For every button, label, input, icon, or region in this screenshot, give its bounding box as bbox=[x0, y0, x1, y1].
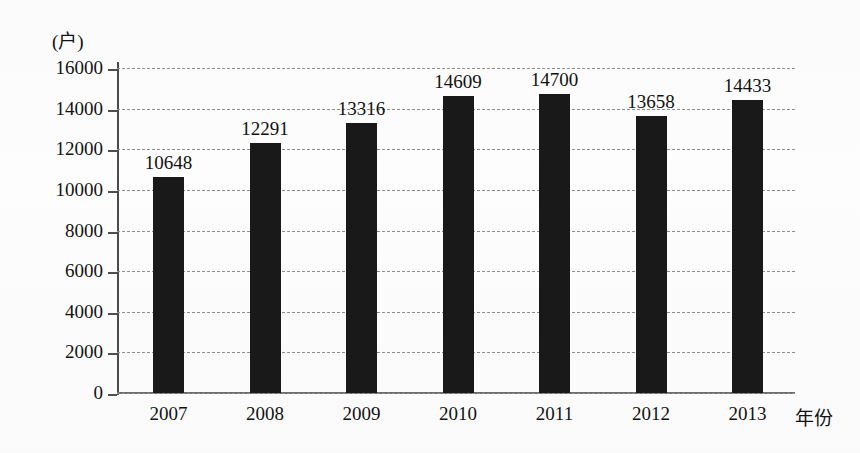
bar-2008: 12291 bbox=[250, 143, 281, 393]
bar-2013: 14433 bbox=[732, 100, 763, 393]
y-tick-label-10000: 10000 bbox=[56, 179, 104, 201]
bar-value-2009: 13316 bbox=[338, 98, 386, 120]
bar-value-2011: 14700 bbox=[531, 69, 579, 91]
x-tick-label-2012: 2012 bbox=[632, 403, 670, 425]
gridline-0: 0 bbox=[117, 393, 795, 394]
y-tick-label-16000: 16000 bbox=[56, 57, 104, 79]
y-tick-mark-8000 bbox=[108, 232, 117, 234]
y-tick-label-8000: 8000 bbox=[65, 220, 103, 242]
bar-2011: 14700 bbox=[539, 94, 570, 393]
bar-2012: 13658 bbox=[636, 116, 667, 393]
y-tick-mark-0 bbox=[108, 394, 117, 396]
bar-value-2013: 14433 bbox=[724, 75, 772, 97]
y-axis-line bbox=[117, 62, 119, 395]
x-tick-label-2011: 2011 bbox=[536, 403, 573, 425]
y-tick-mark-10000 bbox=[108, 191, 117, 193]
y-tick-label-14000: 14000 bbox=[56, 98, 104, 120]
x-tick-label-2013: 2013 bbox=[729, 403, 767, 425]
y-tick-label-12000: 12000 bbox=[56, 139, 104, 161]
y-axis-unit-label: (户) bbox=[52, 26, 84, 53]
bar-2007: 10648 bbox=[153, 177, 184, 393]
bar-chart-screenshot: (户) 16000 14000 12000 10000 8000 6000 bbox=[0, 0, 860, 453]
y-tick-mark-14000 bbox=[108, 110, 117, 112]
x-tick-label-2007: 2007 bbox=[150, 403, 188, 425]
bar-2010: 14609 bbox=[443, 96, 474, 393]
x-tick-label-2008: 2008 bbox=[246, 403, 284, 425]
gridline-16000: 16000 bbox=[117, 68, 795, 69]
y-tick-mark-12000 bbox=[108, 150, 117, 152]
x-tick-label-2009: 2009 bbox=[343, 403, 381, 425]
bar-value-2008: 12291 bbox=[241, 118, 289, 140]
y-tick-label-4000: 4000 bbox=[65, 301, 103, 323]
y-tick-label-2000: 2000 bbox=[65, 342, 103, 364]
x-axis-title: 年份 bbox=[795, 403, 833, 430]
y-tick-mark-16000 bbox=[108, 69, 117, 71]
bar-value-2012: 13658 bbox=[627, 91, 675, 113]
plot-area: 16000 14000 12000 10000 8000 6000 4000 bbox=[117, 68, 795, 393]
bar-2009: 13316 bbox=[346, 123, 377, 394]
y-tick-label-0: 0 bbox=[94, 382, 104, 404]
y-tick-mark-4000 bbox=[108, 313, 117, 315]
y-tick-label-6000: 6000 bbox=[65, 260, 103, 282]
y-tick-mark-6000 bbox=[108, 272, 117, 274]
bar-value-2007: 10648 bbox=[145, 152, 193, 174]
x-tick-label-2010: 2010 bbox=[439, 403, 477, 425]
bar-value-2010: 14609 bbox=[434, 71, 482, 93]
y-tick-mark-2000 bbox=[108, 353, 117, 355]
